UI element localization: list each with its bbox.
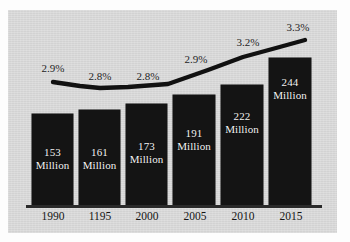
bar-unit: Million (79, 159, 120, 172)
bar-value: 161 (79, 146, 120, 159)
x-tick-2015: 2015 (280, 210, 303, 223)
bar-value: 153 (32, 146, 73, 159)
percent-label-2000: 2.8% (137, 70, 160, 82)
bar-unit: Million (126, 153, 167, 166)
x-tick-1195: 1195 (89, 210, 112, 223)
bar-value: 244 (269, 76, 311, 89)
bar-2000: 173 Million (126, 104, 167, 205)
chart-figure: 153 Million 161 Million 173 Million 191 (0, 0, 350, 242)
chart-panel: 153 Million 161 Million 173 Million 191 (8, 10, 337, 233)
x-axis-line (26, 205, 322, 208)
bar-value: 222 (221, 110, 263, 123)
percent-label-2015: 3.3% (287, 21, 310, 33)
x-tick-1990: 1990 (42, 210, 65, 223)
percent-label-2010: 3.2% (237, 36, 260, 48)
bar-value: 191 (173, 127, 215, 140)
x-tick-2000: 2000 (136, 210, 159, 223)
percent-label-1990: 2.9% (42, 62, 65, 74)
percent-label-2005: 2.9% (185, 53, 208, 65)
bar-unit: Million (269, 89, 311, 102)
x-tick-2005: 2005 (184, 210, 207, 223)
bar-1195: 161 Million (79, 110, 120, 205)
bar-value: 173 (126, 140, 167, 153)
bar-2015: 244 Million (269, 58, 311, 205)
bar-2010: 222 Million (221, 85, 263, 205)
bar-unit: Million (173, 140, 215, 153)
percent-label-1195: 2.8% (89, 70, 112, 82)
plot-area: 153 Million 161 Million 173 Million 191 (8, 10, 337, 233)
x-tick-2010: 2010 (232, 210, 255, 223)
bar-unit: Million (32, 159, 73, 172)
bar-2005: 191 Million (173, 95, 215, 205)
bar-1990: 153 Million (32, 114, 73, 205)
bar-unit: Million (221, 123, 263, 136)
